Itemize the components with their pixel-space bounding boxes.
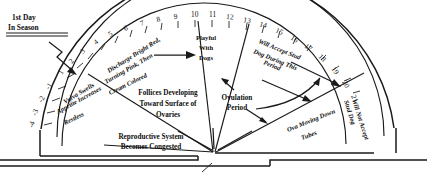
first-day-line-1: 1st Day [12, 13, 36, 22]
sector-playful-with-dogs: Playful With Dogs [196, 34, 216, 61]
baseline-diagonal-tick [202, 163, 212, 172]
day-label-20: 20 [340, 79, 352, 90]
day-label-5: 5 [106, 29, 114, 39]
day-label-neg-1: -1 [43, 81, 54, 91]
baseline-right-step [270, 160, 427, 166]
tick-2 [77, 63, 83, 68]
tick-8 [161, 23, 162, 30]
reproductive-line-2: Becomes Congested [121, 143, 181, 151]
follicles-line-2: Toward Surface of [140, 100, 197, 108]
apex-arrow-right-line [218, 131, 252, 150]
tick-neg-4 [44, 123, 52, 125]
vulva-line-3: Restless [61, 110, 85, 126]
day-label-7: 7 [139, 18, 146, 28]
ova-line-2: Tubes [300, 129, 318, 141]
reproductive-line-1: Reproductive System [118, 133, 183, 141]
follicles-line-1: Follices Developing [138, 89, 198, 97]
day-label-18: 18 [317, 52, 329, 64]
arc-group [41, 0, 394, 146]
day-label-16: 16 [289, 33, 300, 45]
sector-ova-moving-down-tubes: Ova Moving Down Tubes [286, 107, 336, 141]
playful-line-1: Playful [196, 34, 216, 41]
day-label-8: 8 [156, 14, 162, 24]
tick-7 [145, 26, 147, 33]
diagram-canvas: -4 -3 -2 -1 1 2 3 4 5 6 7 8 9 [0, 0, 427, 182]
season-cycle-diagram: -4 -3 -2 -1 1 2 3 4 5 6 7 8 9 [0, 0, 427, 182]
apex-arrow-mid-line [213, 128, 214, 149]
playful-line-3: Dogs [199, 54, 213, 61]
right-boundary-pointer [262, 80, 312, 102]
negative-day-numbers: -4 -3 -2 -1 [26, 81, 54, 129]
discharge-arrowhead [186, 51, 196, 59]
playful-line-2: With [199, 44, 214, 51]
right-boundary-arrow-line [262, 80, 308, 100]
tick-neg-2 [52, 98, 60, 101]
ovulation-line-1: Ovulation [222, 94, 253, 102]
tick-5 [115, 36, 118, 43]
discharge-pointer [154, 51, 196, 59]
first-day-in-season-callout: 1st Day In Season [6, 13, 77, 75]
day-label-13: 13 [243, 15, 252, 25]
sector-reproductive-system: Reproductive System Becomes Congested [118, 133, 183, 151]
day-label-4: 4 [92, 37, 101, 47]
day-label-11: 11 [209, 10, 216, 19]
day-label-19: 19 [329, 65, 341, 77]
first-day-line-2: In Season [8, 23, 39, 32]
day-label-17: 17 [303, 41, 315, 53]
day-label-9: 9 [173, 12, 178, 21]
day-label-15: 15 [274, 26, 285, 37]
day-label-neg-3: -3 [30, 107, 41, 116]
day-label-12: 12 [226, 12, 234, 22]
sector-follicles-developing: Follices Developing Toward Surface of Ov… [138, 89, 198, 119]
ovulation-line-2: Period [227, 104, 247, 112]
day-label-neg-2: -2 [36, 94, 47, 104]
day-label-10: 10 [191, 10, 199, 19]
day-label-14: 14 [258, 19, 268, 30]
ovulation-span-arc [256, 78, 320, 109]
day-label-neg-4: -4 [26, 120, 37, 129]
sector-will-not-accept-stud: Will Not Accept Stud Dog [343, 98, 371, 141]
sector-discharge: Discharge Bright Red, Turning Pink, Then… [103, 35, 162, 95]
baseline-group [0, 153, 427, 172]
will-accept-arrow-line [291, 62, 337, 84]
tick-6 [130, 30, 132, 37]
follicles-line-3: Ovaries [156, 111, 180, 119]
tick-neg-3 [47, 111, 55, 113]
right-boundary-arrowhead [302, 95, 312, 102]
